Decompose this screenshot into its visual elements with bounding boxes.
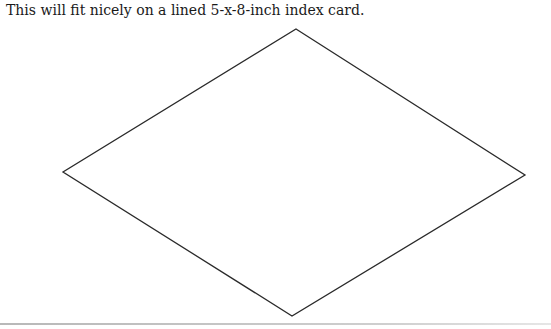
diamond-figure: [0, 0, 551, 329]
diamond-shape: [63, 29, 525, 316]
horizontal-rule: [0, 323, 551, 325]
